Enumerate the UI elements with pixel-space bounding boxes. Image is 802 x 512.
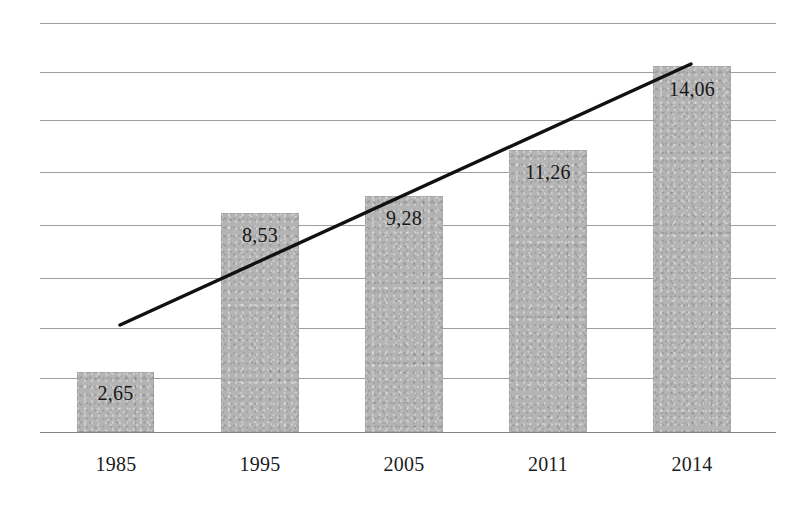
bar-value-2011: 11,26 <box>509 161 587 184</box>
x-axis-label-1985: 1985 <box>66 453 166 476</box>
x-axis-label-2005: 2005 <box>354 453 454 476</box>
x-axis-baseline <box>40 432 776 433</box>
bar-2014[interactable] <box>653 66 731 432</box>
chart-page: 2,65 8,53 9,28 11,26 14,06 1985 1995 200… <box>0 0 802 512</box>
x-axis-label-1995: 1995 <box>210 453 310 476</box>
bar-value-1985: 2,65 <box>77 382 154 405</box>
bar-value-2014: 14,06 <box>653 78 731 101</box>
x-axis-label-2014: 2014 <box>642 453 742 476</box>
bar-value-2005: 9,28 <box>365 207 443 230</box>
x-axis-label-2011: 2011 <box>498 453 598 476</box>
bar-chart: 2,65 8,53 9,28 11,26 14,06 1985 1995 200… <box>0 0 802 512</box>
bar-2005[interactable] <box>365 196 443 432</box>
bar-2011[interactable] <box>509 150 587 432</box>
bar-value-1995: 8,53 <box>221 224 299 247</box>
gridline-1 <box>40 23 776 24</box>
